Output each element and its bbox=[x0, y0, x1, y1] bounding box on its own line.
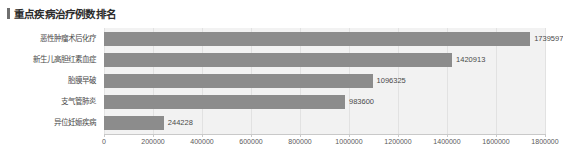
bar[interactable] bbox=[104, 74, 373, 88]
page-title-text: 重点疾病治疗例数排名 bbox=[14, 6, 116, 21]
y-axis-category-labels: 恶性肿瘤术后化疗新生儿高胆红素血症胎膜早破支气管肺炎异位妊娠疾病 bbox=[0, 28, 100, 134]
x-axis-tick-label: 1200000 bbox=[384, 138, 411, 145]
bar-row[interactable]: 1739597 bbox=[104, 28, 545, 49]
bar-row[interactable]: 1096325 bbox=[104, 70, 545, 91]
bar-value-label: 244228 bbox=[168, 117, 193, 129]
x-axis-line bbox=[104, 134, 545, 135]
bar[interactable] bbox=[104, 95, 345, 109]
x-axis-tick bbox=[153, 134, 154, 137]
x-axis-tick-label: 200000 bbox=[141, 138, 164, 145]
x-axis-tick bbox=[545, 134, 546, 137]
x-axis-tick bbox=[447, 134, 448, 137]
title-accent-bar bbox=[7, 8, 10, 19]
x-axis-tick-label: 600000 bbox=[239, 138, 262, 145]
bar[interactable] bbox=[104, 116, 164, 130]
page-title: 重点疾病治疗例数排名 bbox=[0, 6, 116, 20]
x-axis-tick-label: 800000 bbox=[288, 138, 311, 145]
x-axis-tick bbox=[349, 134, 350, 137]
category-label: 新生儿高胆红素血症 bbox=[33, 54, 96, 66]
x-axis-tick-label: 0 bbox=[102, 138, 106, 145]
bar-chart: 恶性肿瘤术后化疗新生儿高胆红素血症胎膜早破支气管肺炎异位妊娠疾病 1739597… bbox=[0, 26, 558, 160]
category-label: 胎膜早破 bbox=[68, 75, 96, 87]
x-axis-tick bbox=[398, 134, 399, 137]
category-label: 恶性肿瘤术后化疗 bbox=[40, 33, 96, 45]
bar[interactable] bbox=[104, 53, 452, 67]
x-axis-tick bbox=[104, 134, 105, 137]
bar-series: 173959714209131096325983600244228 bbox=[104, 28, 545, 134]
category-label: 异位妊娠疾病 bbox=[54, 117, 96, 129]
x-axis-tick-label: 1600000 bbox=[482, 138, 509, 145]
x-axis-tick-label: 1400000 bbox=[433, 138, 460, 145]
x-axis-tick bbox=[300, 134, 301, 137]
bar-row[interactable]: 1420913 bbox=[104, 49, 545, 70]
x-axis-tick-label: 1000000 bbox=[335, 138, 362, 145]
bar-value-label: 983600 bbox=[349, 96, 374, 108]
x-axis-tick-label: 1800000 bbox=[531, 138, 558, 145]
bar-value-label: 1420913 bbox=[456, 54, 485, 66]
x-axis-tick bbox=[496, 134, 497, 137]
bar-row[interactable]: 983600 bbox=[104, 92, 545, 113]
x-axis-tick-label: 400000 bbox=[190, 138, 213, 145]
bar-value-label: 1096325 bbox=[377, 75, 406, 87]
bar[interactable] bbox=[104, 32, 530, 46]
x-axis-tick bbox=[251, 134, 252, 137]
x-axis-tick bbox=[202, 134, 203, 137]
category-label: 支气管肺炎 bbox=[61, 96, 96, 108]
bar-row[interactable]: 244228 bbox=[104, 113, 545, 134]
bar-value-label: 1739597 bbox=[534, 33, 563, 45]
